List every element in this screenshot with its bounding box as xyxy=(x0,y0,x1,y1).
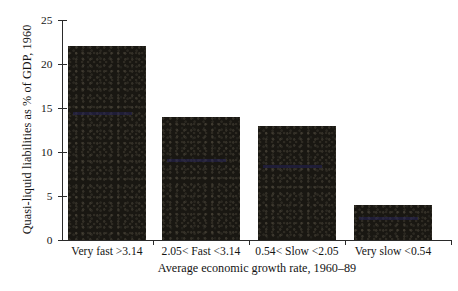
x-category-label: 0.54< Slow <2.05 xyxy=(254,244,340,260)
x-category-label: Very slow <0.54 xyxy=(350,244,436,260)
x-tick-0 xyxy=(153,240,154,245)
bar xyxy=(258,126,336,240)
x-tick-3 xyxy=(451,240,452,245)
y-tick-15: 15 xyxy=(58,108,67,109)
y-tick-5: 5 xyxy=(58,196,67,197)
y-tick-10: 10 xyxy=(58,152,67,153)
bar xyxy=(354,205,432,240)
y-tick-label-25: 25 xyxy=(41,12,52,28)
y-tick-label-0: 0 xyxy=(47,232,53,248)
bar xyxy=(68,46,146,240)
y-tick-label-10: 10 xyxy=(41,144,52,160)
x-axis-title: Average economic growth rate, 1960–89 xyxy=(62,261,452,276)
x-tick-1 xyxy=(249,240,250,245)
x-category-label: 2.05< Fast <3.14 xyxy=(158,244,244,260)
x-category-label: Very fast >3.14 xyxy=(64,244,150,260)
y-axis-title: Quasi-liquid liabilities as % of GDP, 19… xyxy=(20,15,35,245)
y-tick-label-20: 20 xyxy=(41,56,52,72)
y-tick-20: 20 xyxy=(58,64,67,65)
bar xyxy=(162,117,240,240)
y-tick-label-5: 5 xyxy=(47,188,53,204)
y-tick-25: 25 xyxy=(58,20,67,21)
y-axis-line xyxy=(62,20,63,240)
x-axis-line xyxy=(62,240,452,241)
y-tick-0: 0 xyxy=(58,240,67,241)
plot-area: 0510152025 Very fast >3.142.05< Fast <3.… xyxy=(62,20,452,240)
x-tick-2 xyxy=(345,240,346,245)
bar-chart-figure: Quasi-liquid liabilities as % of GDP, 19… xyxy=(0,0,458,291)
y-tick-label-15: 15 xyxy=(41,100,52,116)
